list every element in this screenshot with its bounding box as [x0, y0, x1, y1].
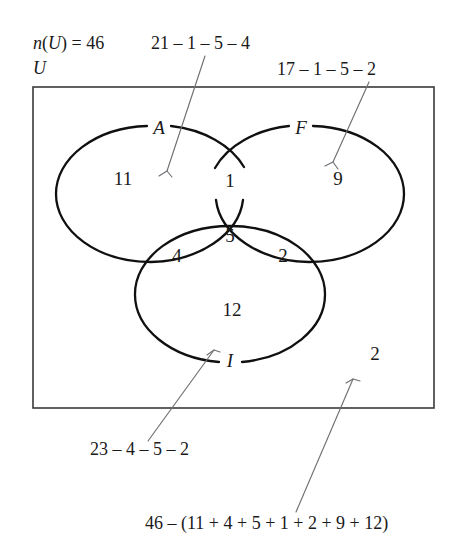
leader-hook-a-only: [159, 171, 172, 177]
set-i-ellipse: [135, 226, 325, 362]
leader-hook-i-only: [207, 350, 220, 355]
set-a-ellipse: [56, 126, 243, 262]
annotation-outside-work: 46 – (11 + 4 + 5 + 1 + 2 + 9 + 12): [145, 513, 388, 534]
set-label-i: I: [226, 350, 235, 371]
region-value-a-and-i-only: 4: [172, 245, 182, 266]
venn-svg-canvas: n(U) = 46 U 21 – 1 – 5 – 4 17 – 1 – 5 – …: [0, 0, 457, 547]
universe-set-label: U: [33, 58, 47, 78]
region-value-all-three: 5: [225, 225, 235, 246]
set-label-a: A: [151, 117, 165, 138]
leader-line-a-only: [167, 56, 205, 171]
leader-hook-outside: [346, 379, 360, 383]
annotation-f-only-work: 17 – 1 – 5 – 2: [277, 59, 376, 79]
leader-line-outside: [296, 379, 353, 512]
region-value-a-and-f-only: 1: [225, 170, 235, 191]
region-value-a-only: 11: [114, 168, 132, 189]
set-f-ellipse-right-arc: [216, 126, 404, 262]
region-value-outside-all: 2: [370, 343, 380, 364]
region-value-f-and-i-only: 2: [278, 245, 288, 266]
annotation-i-only-work: 23 – 4 – 5 – 2: [90, 439, 189, 459]
leader-line-f-only: [333, 82, 369, 162]
set-label-f: F: [294, 117, 307, 138]
leader-line-i-only: [148, 350, 214, 441]
universe-cardinality-label: n(U) = 46: [33, 33, 104, 54]
region-value-f-only: 9: [333, 168, 343, 189]
venn-diagram-figure: n(U) = 46 U 21 – 1 – 5 – 4 17 – 1 – 5 – …: [0, 0, 457, 547]
region-value-i-only: 12: [223, 299, 242, 320]
annotation-a-only-work: 21 – 1 – 5 – 4: [151, 33, 250, 53]
